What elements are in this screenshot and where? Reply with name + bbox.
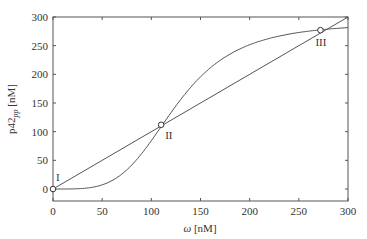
y-label-sub: pp [11, 109, 20, 118]
y-axis-label: p42pp [nM] [5, 84, 20, 134]
plot-frame [53, 17, 348, 201]
x-tick-label: 300 [340, 205, 357, 217]
plot-axes: 050100150200250300050100150200250300 [32, 11, 357, 217]
x-tick-label: 250 [291, 205, 308, 217]
y-tick-label: 100 [32, 126, 49, 138]
y-tick-label: 200 [32, 68, 49, 80]
x-tick-label: 0 [50, 205, 56, 217]
sigmoid-curve [53, 28, 348, 189]
fixed-point-label: III [315, 36, 326, 48]
fixed-point-label: I [56, 171, 60, 183]
fixed-point-marker [50, 186, 56, 192]
y-tick-label: 250 [32, 40, 49, 52]
fixed-point-marker [318, 27, 324, 33]
y-tick-label: 50 [37, 154, 49, 166]
plot-curves [53, 17, 348, 189]
x-axis-label: ω [nM] [183, 222, 216, 234]
identity-line [53, 17, 348, 189]
chart: 050100150200250300050100150200250300 III… [0, 0, 367, 239]
y-tick-label: 300 [32, 11, 49, 23]
fixed-point-marker [158, 122, 164, 128]
y-tick-label: 0 [43, 183, 49, 195]
y-tick-label: 150 [32, 97, 49, 109]
x-tick-label: 150 [192, 205, 209, 217]
y-label-main: p42 [5, 117, 17, 134]
x-tick-label: 200 [241, 205, 258, 217]
fixed-point-label: II [165, 129, 173, 141]
y-label-unit: [nM] [5, 84, 17, 109]
x-tick-label: 100 [143, 205, 160, 217]
x-tick-label: 50 [97, 205, 109, 217]
